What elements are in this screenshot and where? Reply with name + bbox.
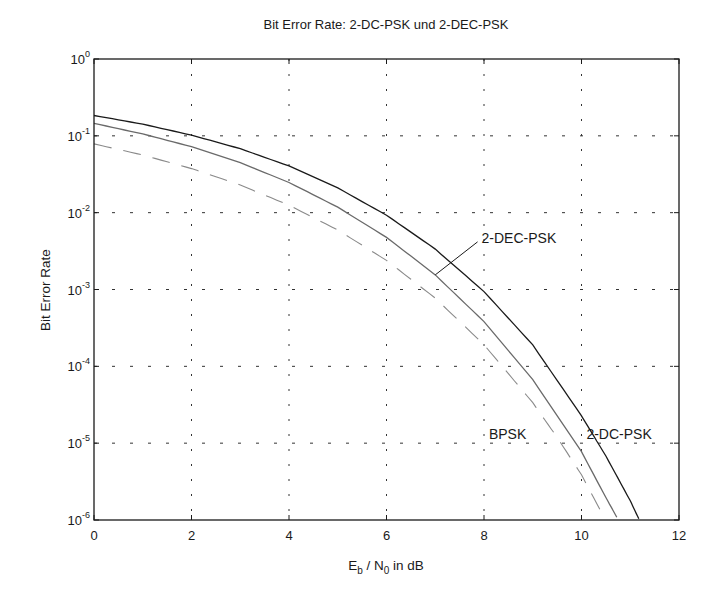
x-axis-label: Eb / N0 in dB [348,558,424,576]
y-tick-label: 10-2 [68,203,90,221]
y-tick-label: 10-4 [68,356,90,374]
y-axis-label: Bit Error Rate [38,249,53,331]
x-axis-ticks: 024681012 [90,59,686,543]
annotation-label: 2-DEC-PSK [482,230,557,246]
y-tick-label: 10-1 [68,126,90,144]
series-2-dc-psk [94,116,639,519]
series-2-dec-psk [94,123,617,517]
y-tick-label: 10-5 [68,433,90,451]
x-tick-label: 6 [383,528,390,543]
x-tick-label: 8 [480,528,487,543]
grid-lines [94,59,679,520]
x-tick-label: 0 [90,528,97,543]
series-bpsk [94,144,603,515]
y-tick-label: 10-6 [68,510,90,528]
x-tick-label: 4 [285,528,292,543]
annotation-label: BPSK [489,426,527,442]
chart-title: Bit Error Rate: 2-DC-PSK und 2-DEC-PSK [264,17,509,32]
ber-chart: Bit Error Rate: 2-DC-PSK und 2-DEC-PSK 0… [0,0,721,602]
x-tick-label: 2 [188,528,195,543]
annotation-label: 2-DC-PSK [586,426,652,442]
y-tick-label: 10-3 [68,280,90,298]
y-axis-ticks: 10010-110-210-310-410-510-6 [68,49,679,528]
x-tick-label: 10 [574,528,588,543]
annotations: 2-DEC-PSKBPSK2-DC-PSK [435,230,652,443]
y-tick-label: 100 [71,49,90,67]
x-tick-label: 12 [672,528,686,543]
data-series [94,116,639,519]
